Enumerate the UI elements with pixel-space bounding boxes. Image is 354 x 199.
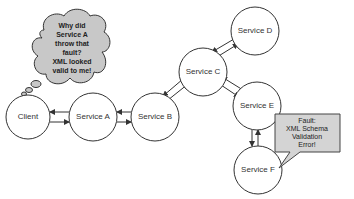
node-service-b-label: Service B	[138, 112, 172, 121]
node-client: Client	[6, 95, 50, 139]
edge-service-e-service-f	[252, 130, 258, 146]
node-service-e: Service E	[233, 82, 281, 130]
node-service-c: Service C	[179, 48, 227, 96]
node-service-d-label: Service D	[238, 26, 273, 35]
thought-line-6: valid to me!	[53, 67, 92, 74]
fault-line-3: Validation	[292, 133, 322, 140]
thought-line-5: XML looked	[52, 58, 91, 65]
node-service-a-label: Service A	[76, 112, 110, 121]
thought-line-4: fault?	[62, 49, 81, 56]
node-service-d: Service D	[231, 7, 279, 55]
fault-line-2: XML Schema	[286, 125, 328, 132]
thought-line-1: Why did	[58, 22, 85, 30]
fault-callout: Fault: XML Schema Validation Error!	[275, 114, 340, 168]
node-service-a: Service A	[69, 93, 117, 141]
fault-line-1: Fault:	[298, 117, 316, 124]
node-client-label: Client	[18, 112, 39, 121]
thought-line-3: throw that	[55, 40, 89, 47]
node-service-e-label: Service E	[240, 101, 274, 110]
thought-line-2: Service A	[56, 31, 88, 38]
node-service-f-label: Service F	[241, 165, 275, 174]
thought-bubble: Why did Service A throw that fault? XML …	[22, 9, 110, 96]
edge-service-a-service-b	[117, 112, 131, 122]
node-service-c-label: Service C	[186, 67, 221, 76]
node-service-b: Service B	[131, 93, 179, 141]
node-service-f: Service F	[234, 146, 282, 194]
service-chain-diagram: Why did Service A throw that fault? XML …	[0, 0, 354, 199]
edge-client-service-a	[50, 112, 69, 122]
fault-line-4: Error!	[298, 141, 316, 148]
